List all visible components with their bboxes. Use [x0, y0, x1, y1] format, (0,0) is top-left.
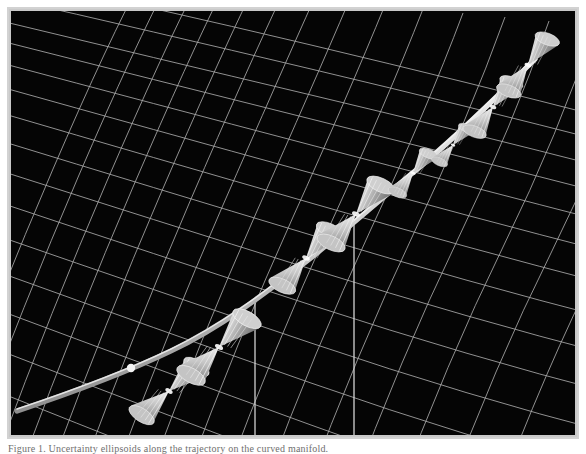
figure-caption: Figure 1. Uncertainty ellipsoids along t… — [8, 443, 328, 454]
figure-caption-strip: Figure 1. Uncertainty ellipsoids along t… — [0, 443, 586, 454]
plot-canvas — [11, 11, 575, 435]
trajectory-node-marker — [127, 364, 135, 372]
figure-container: Figure 1. Uncertainty ellipsoids along t… — [0, 0, 586, 454]
figure-title: 3D curved mesh surface with chain of dou… — [0, 0, 1, 1]
scene-svg — [11, 11, 575, 435]
scene-background — [11, 11, 575, 435]
